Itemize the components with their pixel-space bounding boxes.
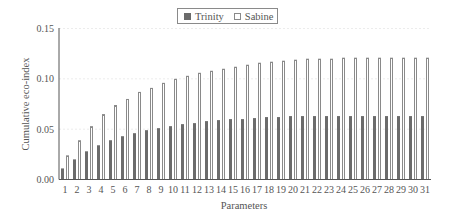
- bar-trinity: [169, 126, 172, 179]
- bar-trinity: [409, 116, 412, 179]
- x-tick-label: 20: [288, 184, 298, 195]
- bar-trinity: [385, 116, 388, 179]
- bar-trinity: [265, 117, 268, 179]
- x-tick-label: 21: [300, 184, 310, 195]
- x-tick-label: 18: [264, 184, 274, 195]
- bar-trinity: [229, 119, 232, 179]
- bar-trinity: [397, 116, 400, 179]
- x-tick-label: 15: [228, 184, 238, 195]
- bar-sabine: [403, 58, 405, 179]
- bar-sabine: [91, 127, 93, 180]
- bar-trinity: [133, 133, 136, 179]
- x-tick-label: 29: [396, 184, 406, 195]
- bar-trinity: [301, 116, 304, 179]
- legend-item-sabine: Sabine: [234, 11, 274, 22]
- bar-sabine: [355, 58, 357, 179]
- bar-sabine: [283, 61, 285, 179]
- bars: [61, 58, 429, 179]
- x-tick-label: 24: [336, 184, 346, 195]
- bar-trinity: [85, 151, 88, 179]
- bar-sabine: [199, 73, 201, 179]
- x-tick-label: 19: [276, 184, 286, 195]
- x-tick-label: 31: [420, 184, 430, 195]
- y-axis-ticks: 0.000.050.100.15: [37, 23, 55, 185]
- bar-sabine: [187, 76, 189, 179]
- bar-sabine: [235, 67, 237, 179]
- x-tick-label: 13: [204, 184, 214, 195]
- bar-sabine: [319, 59, 321, 179]
- x-tick-label: 7: [135, 184, 140, 195]
- bar-trinity: [61, 168, 64, 179]
- bar-sabine: [115, 106, 117, 180]
- x-tick-label: 16: [240, 184, 250, 195]
- x-tick-label: 12: [192, 184, 202, 195]
- bar-trinity: [289, 116, 292, 179]
- x-tick-label: 17: [252, 184, 262, 195]
- x-tick-label: 2: [75, 184, 80, 195]
- bar-trinity: [97, 145, 100, 179]
- bar-sabine: [343, 58, 345, 179]
- bar-sabine: [271, 62, 273, 179]
- bar-trinity: [325, 116, 328, 179]
- bar-sabine: [163, 83, 165, 179]
- x-axis-title: Parameters: [221, 200, 268, 211]
- bar-trinity: [73, 159, 76, 179]
- bar-trinity: [349, 116, 352, 179]
- x-tick-label: 11: [180, 184, 190, 195]
- bar-sabine: [427, 58, 429, 179]
- bar-sabine: [259, 63, 261, 179]
- bar-trinity: [421, 116, 424, 179]
- bar-trinity: [313, 116, 316, 179]
- y-axis-title: Cumulative eco-index: [20, 57, 31, 151]
- x-tick-label: 8: [147, 184, 152, 195]
- bar-trinity: [109, 140, 112, 179]
- bar-sabine: [79, 141, 81, 180]
- legend-item-trinity: Trinity: [184, 11, 224, 22]
- x-tick-label: 9: [159, 184, 164, 195]
- bar-trinity: [205, 121, 208, 179]
- y-tick-label: 0.10: [37, 73, 55, 84]
- bar-trinity: [373, 116, 376, 179]
- bar-trinity: [121, 136, 124, 179]
- bar-trinity: [145, 130, 148, 179]
- x-tick-label: 27: [372, 184, 382, 195]
- legend-label: Sabine: [245, 11, 274, 22]
- x-tick-label: 14: [216, 184, 226, 195]
- x-tick-label: 1: [63, 184, 68, 195]
- bar-trinity: [241, 119, 244, 179]
- y-tick-label: 0.00: [37, 174, 55, 185]
- bar-sabine: [379, 58, 381, 179]
- x-tick-label: 22: [312, 184, 322, 195]
- bar-sabine: [151, 88, 153, 179]
- bar-sabine: [223, 69, 225, 179]
- bar-trinity: [277, 117, 280, 179]
- bar-sabine: [247, 65, 249, 179]
- bar-sabine: [307, 59, 309, 179]
- x-tick-label: 28: [384, 184, 394, 195]
- hollow-square-icon: [234, 13, 241, 20]
- bar-sabine: [175, 79, 177, 179]
- bar-trinity: [253, 118, 256, 179]
- bar-chart: 0.000.050.100.15 12345678910111213141516…: [0, 0, 449, 222]
- bar-sabine: [415, 58, 417, 179]
- bar-sabine: [391, 58, 393, 179]
- y-tick-label: 0.15: [37, 23, 55, 34]
- bar-sabine: [103, 115, 105, 180]
- x-tick-label: 26: [360, 184, 370, 195]
- bar-sabine: [67, 156, 69, 180]
- bar-sabine: [367, 58, 369, 179]
- x-tick-label: 3: [87, 184, 92, 195]
- legend-label: Trinity: [195, 11, 224, 22]
- bar-trinity: [337, 116, 340, 179]
- bar-trinity: [181, 124, 184, 179]
- bar-sabine: [295, 60, 297, 179]
- bar-sabine: [211, 71, 213, 179]
- x-tick-label: 5: [111, 184, 116, 195]
- bar-sabine: [127, 99, 129, 179]
- y-tick-label: 0.05: [37, 124, 55, 135]
- x-tick-label: 6: [123, 184, 128, 195]
- x-tick-label: 30: [408, 184, 418, 195]
- x-tick-label: 4: [99, 184, 104, 195]
- bar-trinity: [361, 116, 364, 179]
- filled-square-icon: [184, 13, 191, 20]
